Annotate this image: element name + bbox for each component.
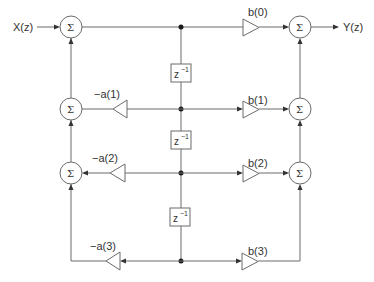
gain-label-neg-a2: −a(2) <box>92 152 118 164</box>
arrow-icon <box>82 171 88 176</box>
arrow-icon <box>283 25 289 30</box>
sigma-icon: Σ <box>67 168 74 179</box>
gain-label-b3: b(3) <box>248 245 268 257</box>
gain-neg-a1 <box>113 100 127 118</box>
adder-left-2: Σ <box>60 162 82 184</box>
adder-right-1: Σ <box>289 98 311 120</box>
sigma-icon: Σ <box>67 22 74 33</box>
gain-label-neg-a3: −a(3) <box>90 240 116 252</box>
gain-label-neg-a1: −a(1) <box>94 88 120 100</box>
arrow-icon <box>298 38 303 44</box>
adder-left-0: Σ <box>60 16 82 38</box>
arrow-icon <box>283 107 289 112</box>
sigma-icon: Σ <box>296 22 303 33</box>
arrow-icon <box>120 259 126 264</box>
adder-left-1: Σ <box>60 98 82 120</box>
svg-text:−1: −1 <box>180 210 188 217</box>
sigma-icon: Σ <box>296 104 303 115</box>
gain-label-b2: b(2) <box>248 157 268 169</box>
output-label: Y(z) <box>343 21 363 33</box>
arrow-icon <box>283 171 289 176</box>
arrow-icon <box>236 259 242 264</box>
junction-node-0 <box>179 25 184 30</box>
adder-right-0: Σ <box>289 16 311 38</box>
arrow-icon <box>54 25 60 30</box>
arrow-icon <box>298 120 303 126</box>
arrow-icon <box>298 184 303 190</box>
arrow-icon <box>237 171 243 176</box>
svg-text:z: z <box>174 136 179 147</box>
gain-neg-a2 <box>110 164 125 182</box>
arrow-icon <box>69 38 74 44</box>
sigma-icon: Σ <box>67 104 74 115</box>
arrow-icon <box>333 25 339 30</box>
gain-neg-a3 <box>106 252 120 270</box>
arrow-icon <box>69 184 74 190</box>
delay-block-2: z −1 <box>171 131 191 149</box>
adder-right-2: Σ <box>289 162 311 184</box>
svg-text:z: z <box>174 69 179 80</box>
input-label: X(z) <box>13 21 33 33</box>
iir-filter-diagram: X(z) z −1 z −1 z −1 −a(1) −a(2) <box>0 0 374 282</box>
delay-block-3: z −1 <box>170 208 190 226</box>
arrow-icon <box>237 107 243 112</box>
delay-block-1: z −1 <box>171 64 191 82</box>
gain-label-b0: b(0) <box>248 6 268 18</box>
sigma-icon: Σ <box>296 168 303 179</box>
gain-b0 <box>243 19 259 36</box>
svg-text:−1: −1 <box>181 66 189 73</box>
gain-label-b1: b(1) <box>248 94 268 106</box>
svg-text:−1: −1 <box>181 133 189 140</box>
arrow-icon <box>69 120 74 126</box>
svg-text:z: z <box>173 213 178 224</box>
